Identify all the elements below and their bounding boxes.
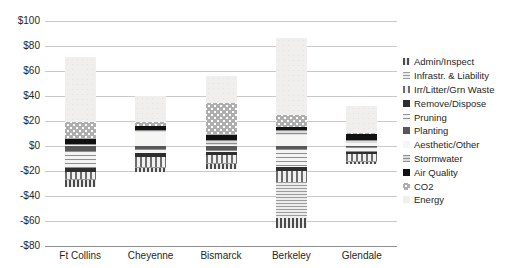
y-axis-tick-label: -$60 (2, 216, 40, 226)
legend-label: CO2 (414, 181, 434, 192)
legend-item: Stormwater (403, 152, 509, 166)
legend-label: Infrastr. & Liability (414, 70, 489, 81)
co2-swatch-icon (403, 183, 410, 190)
y-axis-tick-label: $100 (2, 16, 40, 26)
legend-item: Planting (403, 124, 509, 138)
legend-item: Infrastr. & Liability (403, 69, 509, 83)
stormwater-swatch-icon (403, 155, 410, 162)
legend-label: Remove/Dispose (414, 98, 486, 109)
bar-segment (346, 133, 377, 134)
legend-item: Aesthetic/Other (403, 138, 509, 152)
bar-segment (346, 140, 377, 143)
bar-segment (135, 157, 166, 167)
bar-segment (65, 180, 96, 187)
legend-item: Remove/Dispose (403, 96, 509, 110)
bar-segment (135, 96, 166, 122)
x-axis-category-label: Bismarck (186, 250, 256, 261)
bar-segment (65, 151, 96, 168)
legend-item: Irr/Litter/Grn Waste (403, 83, 509, 97)
bar-segment (65, 139, 96, 144)
bar-segment (346, 106, 377, 133)
x-axis-category-label: Glendale (327, 250, 397, 261)
y-axis-tick-label: $40 (2, 91, 40, 101)
remove-dispose-swatch-icon (403, 100, 410, 107)
gridline-60 (45, 71, 397, 72)
bar-segment (276, 38, 307, 116)
legend-label: Irr/Litter/Grn Waste (414, 84, 494, 95)
bar-segment (346, 134, 377, 140)
bar-segment (206, 76, 237, 103)
aesthetic-other-swatch-icon (403, 141, 410, 148)
legend-label: Stormwater (414, 153, 463, 164)
bar-segment (276, 115, 307, 127)
gridline--20 (45, 171, 397, 172)
bar-segment (206, 140, 237, 145)
bar-segment (276, 135, 307, 146)
bar-segment (276, 130, 307, 135)
bar-segment (206, 103, 237, 136)
bar-segment (135, 126, 166, 130)
legend-label: Pruning (414, 112, 447, 123)
bar-segment (206, 135, 237, 139)
gridline--80 (45, 246, 397, 247)
y-axis-tick-label: -$20 (2, 166, 40, 176)
legend-label: Admin/Inspect (414, 56, 474, 67)
gridline-100 (45, 21, 397, 22)
y-axis-tick-label: -$80 (2, 241, 40, 251)
pruning-swatch-icon (403, 114, 410, 121)
bar-segment (276, 171, 307, 182)
infrastr-liability-swatch-icon (403, 72, 410, 79)
air-quality-swatch-icon (403, 169, 410, 176)
irr-litter-grn-waste-swatch-icon (403, 86, 410, 93)
admin-inspect-swatch-icon (403, 58, 410, 65)
gridline--40 (45, 196, 397, 197)
y-axis-tick-label: -$40 (2, 191, 40, 201)
bar-segment (135, 122, 166, 126)
y-axis-tick-label: $20 (2, 116, 40, 126)
x-axis-category-label: Ft Collins (45, 250, 115, 261)
benefit-cost-stacked-bar-chart: $100$80$60$40$20$0-$20-$40-$60-$80Ft Col… (0, 0, 511, 268)
y-axis-tick-label: $60 (2, 66, 40, 76)
bar-segment (346, 162, 377, 164)
bar-segment (65, 172, 96, 179)
legend-item: Pruning (403, 110, 509, 124)
x-axis-category-label: Cheyenne (115, 250, 185, 261)
x-axis-category-label: Berkeley (256, 250, 326, 261)
legend-label: Energy (414, 194, 444, 205)
legend-label: Planting (414, 125, 448, 136)
gridline-80 (45, 46, 397, 47)
legend-label: Aesthetic/Other (414, 139, 479, 150)
bar-segment (346, 154, 377, 162)
bar-segment (65, 122, 96, 139)
y-axis-tick-label: $80 (2, 41, 40, 51)
bar-segment (276, 182, 307, 218)
bar-segment (135, 130, 166, 133)
bar-segment (276, 127, 307, 130)
legend-item: Energy (403, 193, 509, 207)
bar-segment (276, 149, 307, 168)
gridline--60 (45, 221, 397, 222)
bar-segment (65, 57, 96, 122)
bar-segment (206, 164, 237, 168)
energy-swatch-icon (403, 196, 410, 203)
legend-item: Admin/Inspect (403, 55, 509, 69)
bar-segment (135, 132, 166, 146)
y-axis-tick-label: $0 (2, 141, 40, 151)
planting-swatch-icon (403, 127, 410, 134)
legend-item: Air Quality (403, 165, 509, 179)
legend: Admin/InspectInfrastr. & LiabilityIrr/Li… (403, 55, 509, 207)
legend-label: Air Quality (414, 167, 458, 178)
bar-segment (206, 155, 237, 163)
bar-segment (135, 168, 166, 172)
bar-segment (276, 218, 307, 228)
legend-item: CO2 (403, 179, 509, 193)
